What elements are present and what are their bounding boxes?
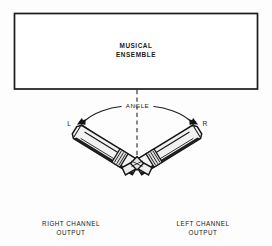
angle-label: ANGLE <box>126 102 149 109</box>
left-channel-output-label-line1: LEFT CHANNEL <box>176 220 229 227</box>
ensemble-label-line2: ENSEMBLE <box>116 51 156 58</box>
right-channel-axis-label: R <box>203 120 208 127</box>
ensemble-label-line1: MUSICAL <box>120 42 153 49</box>
right-channel-output-label-line2: OUTPUT <box>57 229 86 236</box>
left-channel-axis-label: L <box>67 120 71 127</box>
left-channel-output-label-line2: OUTPUT <box>189 229 218 236</box>
diagram-canvas: MUSICAL ENSEMBLE ANGLE L R <box>0 0 272 246</box>
right-channel-output-label-line1: RIGHT CHANNEL <box>42 220 100 227</box>
stereo-mic-diagram: MUSICAL ENSEMBLE ANGLE L R <box>0 0 272 246</box>
ensemble-box: MUSICAL ENSEMBLE <box>15 14 258 90</box>
